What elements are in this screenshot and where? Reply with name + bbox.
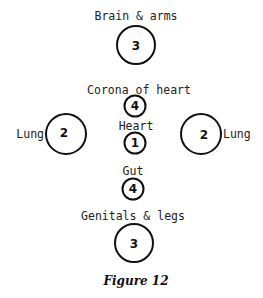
node-value: 3: [130, 237, 138, 251]
node-label: Corona of heart: [87, 83, 191, 97]
figure-caption: Figure 12: [102, 274, 168, 288]
node-right-lung: 2 Lung: [181, 114, 251, 154]
node-label: Brain & arms: [94, 9, 177, 23]
node-value: 4: [131, 99, 139, 113]
node-label: Gut: [123, 164, 144, 178]
node-value: 2: [60, 126, 68, 140]
node-label: Genitals & legs: [81, 209, 185, 223]
body-diagram: Brain & arms 3 Corona of heart 4 Heart 1…: [0, 0, 263, 298]
node-label: Heart: [119, 119, 154, 133]
node-value: 4: [129, 182, 137, 196]
node-genitals-legs: Genitals & legs 3: [81, 209, 185, 262]
node-brain-arms: Brain & arms 3: [94, 9, 177, 64]
node-label: Lung: [223, 127, 251, 141]
node-value: 1: [131, 136, 139, 150]
node-gut: Gut 4: [123, 164, 144, 200]
node-label: Lung: [16, 127, 44, 141]
node-heart: Heart 1: [119, 119, 154, 154]
node-left-lung: Lung 2: [16, 114, 86, 154]
node-value: 3: [132, 39, 140, 53]
node-corona-of-heart: Corona of heart 4: [87, 83, 191, 117]
node-value: 2: [200, 128, 208, 142]
